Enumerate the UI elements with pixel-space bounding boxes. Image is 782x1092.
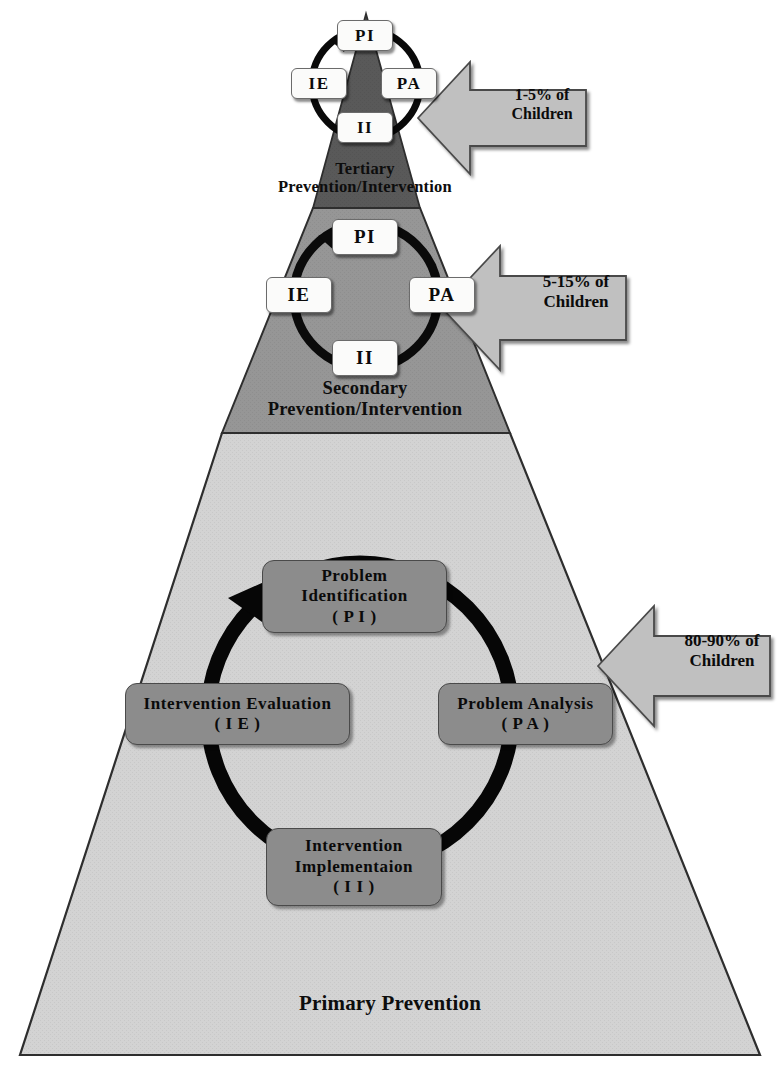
callout-arrow-primary — [598, 606, 770, 726]
primary-cycle-node-problem-analysis: Problem Analysis ( P A ) — [438, 683, 613, 745]
secondary-cycle-node-pa: PA — [409, 277, 475, 313]
primary-cycle-node-problem-identification: Problem Identification ( P I ) — [262, 560, 447, 633]
primary-cycle-node-intervention-evaluation: Intervention Evaluation ( I E ) — [125, 683, 350, 745]
secondary-cycle-node-pi: PI — [332, 219, 398, 255]
callout-arrow-tertiary — [418, 62, 586, 174]
pyramid-graphics — [0, 0, 782, 1092]
secondary-cycle-node-ie: IE — [266, 277, 332, 313]
tertiary-cycle-node-ii: II — [337, 112, 393, 143]
tier-primary — [20, 433, 760, 1055]
primary-cycle-node-intervention-implementation: Intervention Implementaion ( I I ) — [266, 828, 442, 906]
tertiary-cycle-node-ie: IE — [291, 68, 347, 99]
tertiary-cycle-node-pi: PI — [337, 20, 393, 51]
tertiary-cycle-node-pa: PA — [381, 68, 437, 99]
secondary-cycle-node-ii: II — [332, 340, 398, 376]
pyramid-diagram: Tertiary Prevention/Intervention Seconda… — [0, 0, 782, 1092]
